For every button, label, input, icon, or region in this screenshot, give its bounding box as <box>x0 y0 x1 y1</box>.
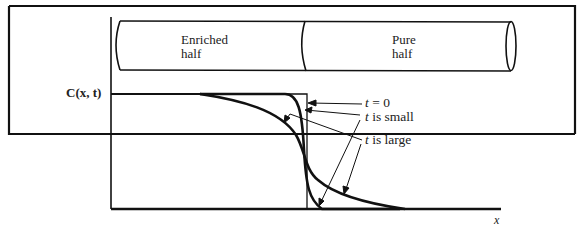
label-t-0-rest: = 0 <box>369 95 390 110</box>
pure-label-line2: half <box>392 47 416 61</box>
y-axis-label: C(x, t) <box>66 86 101 100</box>
diagram-canvas <box>0 0 583 243</box>
enriched-half-label: Enriched half <box>181 33 228 61</box>
x-axis-label: x <box>494 213 499 227</box>
enriched-label-line1: Enriched <box>181 33 228 47</box>
pure-label-line1: Pure <box>392 33 416 47</box>
label-t-large-rest: is large <box>369 132 412 147</box>
label-t-large: t is large <box>365 133 411 147</box>
enriched-label-line2: half <box>181 47 228 61</box>
tube-illustration <box>116 21 516 71</box>
label-t-0: t = 0 <box>365 96 390 110</box>
label-leaders <box>284 100 362 206</box>
pure-half-label: Pure half <box>392 33 416 61</box>
label-t-small: t is small <box>365 110 414 124</box>
label-t-small-rest: is small <box>369 109 414 124</box>
curve-t-0 <box>200 94 307 209</box>
